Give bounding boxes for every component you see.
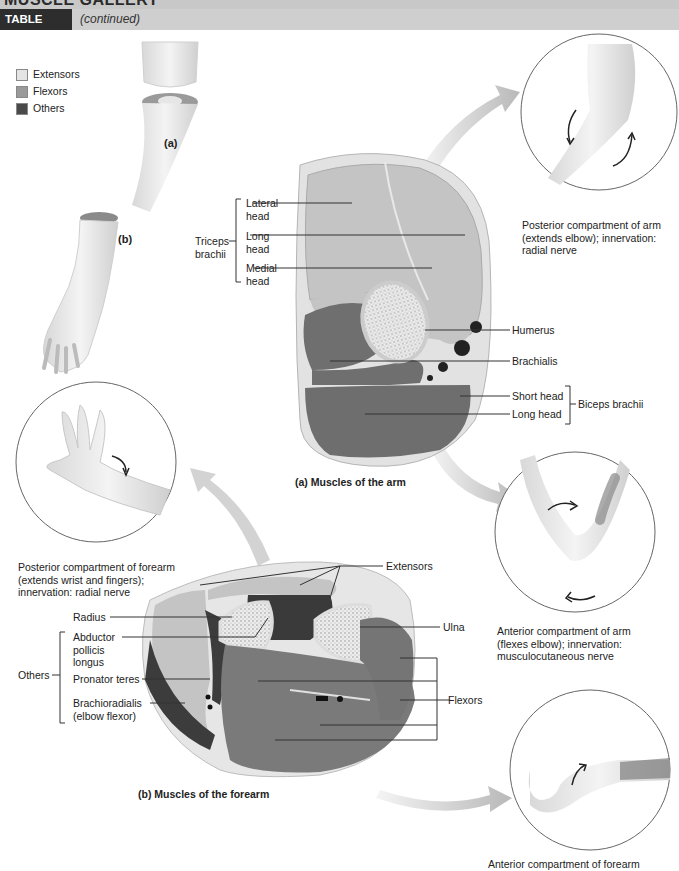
overview-upper-arm	[132, 42, 198, 212]
posterior-forearm-description: Posterior compartment of forearm (extend…	[18, 561, 178, 599]
wrist-extension-illustration	[16, 382, 176, 542]
radius-label: Radius	[73, 611, 106, 624]
panel-a-label: (a)	[164, 137, 177, 150]
flexors-label: Flexors	[448, 694, 482, 707]
forearm-cross-section	[142, 562, 415, 777]
flexors-swatch	[16, 86, 28, 98]
anterior-forearm-description: Anterior compartment of forearm	[488, 858, 678, 871]
medial-head-label: Medial head	[246, 262, 282, 287]
lateral-head-label: Lateral head	[246, 197, 282, 222]
posterior-arm-description: Posterior compartment of arm (extends el…	[522, 219, 672, 257]
wrist-flexion-illustration	[510, 690, 670, 850]
arm-caption: (a) Muscles of the arm	[295, 476, 406, 489]
pronator-teres-label: Pronator teres	[73, 673, 140, 686]
arm-cross-section	[296, 154, 491, 467]
short-head-label: Short head	[512, 390, 563, 403]
long-head-triceps-label: Long head	[246, 230, 282, 255]
extensors-swatch	[16, 69, 28, 81]
brachialis-label: Brachialis	[512, 355, 558, 368]
biceps-brachii-label: Biceps brachii	[578, 398, 643, 411]
long-head-biceps-label: Long head	[512, 408, 562, 421]
arrow-to-anterior-forearm	[376, 786, 512, 812]
panel-b-label: (b)	[118, 233, 132, 246]
others-group-label: Others	[18, 669, 50, 682]
legend-item-flexors: Flexors	[16, 83, 80, 100]
humerus-label: Humerus	[512, 324, 555, 337]
forearm-caption: (b) Muscles of the forearm	[138, 788, 269, 801]
triceps-brachii-label: Triceps brachii	[195, 235, 231, 260]
arrow-to-posterior-forearm	[190, 468, 270, 566]
legend-item-others: Others	[16, 100, 80, 117]
elbow-flexion-illustration	[495, 452, 655, 612]
extensors-label: Extensors	[386, 560, 433, 573]
legend: Extensors Flexors Others	[16, 66, 80, 117]
anterior-arm-description: Anterior compartment of arm (flexes elbo…	[497, 625, 647, 663]
others-swatch	[16, 103, 28, 115]
abductor-pollicis-longus-label: Abductor pollicis longus	[73, 631, 123, 669]
elbow-extension-illustration	[521, 34, 677, 190]
legend-item-extensors: Extensors	[16, 66, 80, 83]
brachioradialis-label: Brachioradialis (elbow flexor)	[73, 697, 153, 722]
overview-forearm	[43, 212, 118, 372]
ulna-label: Ulna	[443, 621, 465, 634]
